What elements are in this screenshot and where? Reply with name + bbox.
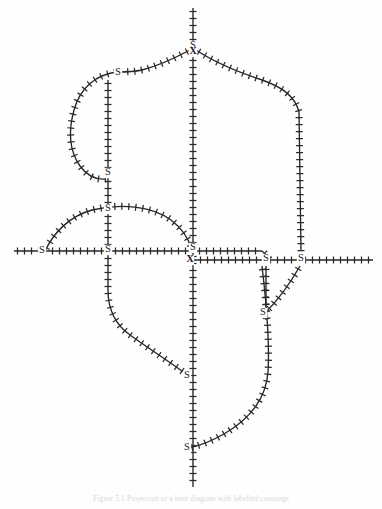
node-label-s-right-lower: S [260,306,266,317]
node-label-s-center: S [190,241,196,252]
hatch-tick [141,67,143,74]
hatch-tick [262,297,269,298]
knot-diagram: SSSSSSSSSSSSXX [0,0,382,509]
hatch-tick [134,336,138,342]
node-label-s-right-inner: S [263,252,269,263]
node-label-s-bottom-lower: S [184,441,190,452]
strand-apex-to-upper-left [118,50,190,72]
hatch-tick [70,113,77,115]
hatch-tick [134,68,135,75]
node-label-s-left-branch: S [105,202,111,213]
strand-right-diagonal [266,266,300,312]
hatch-tick [261,290,268,291]
hatch-tick [142,205,143,212]
hatch-tick [157,352,161,358]
hatch-tick [181,231,187,235]
strand-left-hump-arc [45,206,192,251]
hatch-tick [263,380,270,381]
hatch-tick [234,423,238,429]
crossing-label-x-center: X [186,253,194,264]
hatch-tick [280,86,284,92]
figure-caption: Figure 5.1 Projection of a knot diagram … [0,494,382,503]
node-label-s-upper-left: S [115,66,121,77]
hatch-tick [259,269,266,270]
hatch-tick [260,276,267,277]
node-label-s-bottom-upper: S [184,369,190,380]
hatch-tick [98,175,99,182]
strand-right-descending-arc [189,266,269,448]
node-label-s-mid-left-stem: S [105,166,111,177]
node-label-s-right-outer: S [298,252,304,263]
hatch-tick [197,49,201,55]
figure-root: SSSSSSSSSSSSXX Figure 5.1 Projection of … [0,0,382,509]
hatch-tick [146,344,150,350]
hatch-tick [69,148,76,150]
crossing-label-x-top-apex: X [189,45,197,56]
hatch-tick [253,405,259,409]
hatch-tick [288,279,294,283]
hatch-tick [128,332,132,338]
strand-left-descending-arc [108,290,186,374]
hatch-tick [67,128,74,129]
hatch-tick [264,374,271,375]
hatch-tick [169,360,173,366]
hatch-tick [105,300,112,301]
node-label-s-left-axis: S [105,243,111,254]
hatch-tick [100,205,101,212]
hatch-tick [260,283,267,284]
hatch-tick [68,121,75,122]
hatch-tick [68,142,75,143]
strand-upper-right-arc [196,50,301,251]
hatch-tick [284,285,290,289]
hatch-tick [93,206,95,213]
node-label-s-far-left: S [39,244,45,255]
hatch-tick [263,304,270,305]
hatch-tick [228,427,232,433]
hatch-tick [174,364,178,370]
hatch-tick [163,356,167,362]
hatch-tick [47,240,53,244]
hatch-tick [135,204,136,211]
hatch-tick [140,340,144,346]
hatch-tick [151,348,155,354]
hatch-tick [167,215,171,221]
hatch-tick [93,77,97,83]
